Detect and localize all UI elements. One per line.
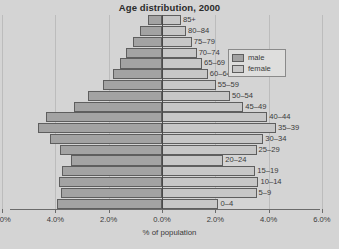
age-group-label: 75–79 [194, 37, 215, 47]
bar-male-55_59 [103, 80, 162, 90]
population-pyramid-chart: Age distribution, 2000 85+80–8475–7970–7… [0, 0, 339, 249]
age-group-label: 35–39 [278, 123, 299, 133]
bar-female-45_49 [162, 102, 243, 112]
x-tick-label: 4.0% [249, 215, 289, 224]
bar-male-65_69 [120, 58, 162, 68]
x-axis-line [10, 209, 320, 210]
bar-female-55_59 [162, 80, 216, 90]
bar-female-85+ [162, 15, 181, 25]
age-group-label: 65–69 [204, 58, 225, 68]
chart-title: Age distribution, 2000 [0, 2, 339, 13]
legend-swatch-male [232, 54, 244, 62]
bar-female-25_29 [162, 145, 257, 155]
legend-label: female [248, 64, 271, 74]
bar-male-15_19 [62, 166, 162, 176]
bar-female-15_19 [162, 166, 255, 176]
age-group-label: 40–44 [269, 112, 290, 122]
bar-male-40_44 [46, 112, 162, 122]
bar-row [10, 15, 320, 25]
bar-female-5_9 [162, 188, 257, 198]
x-tick-mark [322, 209, 323, 213]
age-group-label: 10–14 [260, 177, 281, 187]
bar-female-60_64 [162, 69, 208, 79]
bar-male-80_84 [140, 26, 162, 36]
bar-row [10, 91, 320, 101]
bar-male-50_54 [88, 91, 162, 101]
bar-male-60_64 [113, 69, 162, 79]
bar-row [10, 26, 320, 36]
x-tick-mark [2, 209, 3, 213]
legend: malefemale [228, 49, 286, 77]
age-group-label: 85+ [183, 15, 196, 25]
bar-female-10_14 [162, 177, 258, 187]
bar-female-80_84 [162, 26, 186, 36]
bar-male-10_14 [59, 177, 162, 187]
age-group-label: 80–84 [188, 26, 209, 36]
bar-row [10, 123, 320, 133]
bar-female-0_4 [162, 199, 218, 209]
bar-male-75_79 [133, 37, 162, 47]
legend-swatch-female [232, 65, 244, 73]
bar-female-35_39 [162, 123, 276, 133]
bar-row [10, 37, 320, 47]
x-tick-label: 6.0% [302, 215, 339, 224]
bar-row [10, 155, 320, 165]
gridline [322, 15, 323, 209]
age-group-label: 15–19 [257, 166, 278, 176]
bar-row [10, 188, 320, 198]
bar-row [10, 199, 320, 209]
age-group-label: 70–74 [199, 48, 220, 58]
zero-axis-line [162, 15, 163, 209]
age-group-label: 25–29 [259, 145, 280, 155]
age-group-label: 20–24 [225, 155, 246, 165]
x-tick-mark [269, 209, 270, 213]
bar-female-65_69 [162, 58, 202, 68]
bar-female-70_74 [162, 48, 197, 58]
bar-male-45_49 [74, 102, 162, 112]
x-tick-mark [162, 209, 163, 213]
bar-female-30_34 [162, 134, 263, 144]
bar-female-20_24 [162, 155, 223, 165]
x-axis-title: % of population [0, 228, 339, 237]
plot-area: 85+80–8475–7970–7465–6960–6455–5950–5445… [10, 15, 320, 209]
bar-male-30_34 [50, 134, 162, 144]
bar-male-0_4 [57, 199, 162, 209]
x-tick-mark [109, 209, 110, 213]
bar-male-70_74 [126, 48, 162, 58]
bar-male-25_29 [60, 145, 162, 155]
bar-female-50_54 [162, 91, 230, 101]
age-group-label: 30–34 [265, 134, 286, 144]
age-group-label: 5–9 [259, 188, 272, 198]
age-group-label: 55–59 [218, 80, 239, 90]
bar-female-75_79 [162, 37, 192, 47]
x-tick-label: 2.0% [89, 215, 129, 224]
x-tick-mark [215, 209, 216, 213]
age-group-label: 45–49 [245, 102, 266, 112]
age-group-label: 0–4 [220, 199, 233, 209]
legend-label: male [248, 53, 264, 63]
bar-female-40_44 [162, 112, 267, 122]
bar-male-85+ [148, 15, 162, 25]
x-tick-label: 2.0% [195, 215, 235, 224]
x-tick-mark [55, 209, 56, 213]
gridline [2, 15, 3, 209]
bar-male-5_9 [61, 188, 162, 198]
x-tick-label: 4.0% [35, 215, 75, 224]
bar-row [10, 80, 320, 90]
bar-male-20_24 [71, 155, 162, 165]
x-tick-label: 6.0% [0, 215, 22, 224]
bar-male-35_39 [38, 123, 162, 133]
bar-row [10, 102, 320, 112]
age-group-label: 50–54 [232, 91, 253, 101]
x-tick-label: 0.0% [142, 215, 182, 224]
